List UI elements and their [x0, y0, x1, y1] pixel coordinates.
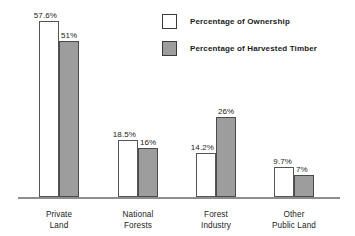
bar-value-timber-private-land: 51% [61, 31, 77, 41]
x-axis-baseline [18, 197, 340, 199]
category-label-forest-industry: Forest Industry [178, 209, 254, 231]
category-label-line2: Industry [178, 220, 254, 231]
category-label-line1: Other [284, 210, 305, 219]
bar-pair: 18.5% 16% [100, 17, 176, 197]
bar-pair: 14.2% 26% [178, 17, 254, 197]
bar-group-national-forests: 18.5% 16% National Forests [100, 7, 176, 197]
bar-timber-national-forests: 16% [138, 148, 158, 197]
bar-ownership-private-land: 57.6% [39, 21, 59, 197]
bar-value-ownership-other-public-land: 9.7% [273, 157, 292, 167]
bar-value-ownership-national-forests: 18.5% [113, 130, 136, 140]
bar-value-timber-other-public-land: 7% [296, 165, 308, 175]
bar-ownership-forest-industry: 14.2% [196, 153, 216, 197]
bar-timber-forest-industry: 26% [216, 117, 236, 197]
bar-timber-private-land: 51% [59, 41, 79, 197]
bar-timber-other-public-land: 7% [294, 175, 314, 197]
bar-group-other-public-land: 9.7% 7% Other Public Land [256, 7, 332, 197]
bar-pair: 57.6% 51% [21, 17, 97, 197]
category-label-line1: National [123, 210, 154, 219]
category-label-line2: Forests [100, 220, 176, 231]
category-label-national-forests: National Forests [100, 209, 176, 231]
category-label-line2: Land [21, 220, 97, 231]
plot-area: 57.6% 51% Private Land 18.5% 16% [0, 0, 355, 236]
bar-value-timber-forest-industry: 26% [218, 107, 234, 117]
bar-value-ownership-forest-industry: 14.2% [191, 143, 214, 153]
category-label-line2: Public Land [256, 220, 332, 231]
category-label-line1: Private [46, 210, 72, 219]
bar-group-private-land: 57.6% 51% Private Land [21, 7, 97, 197]
category-label-other-public-land: Other Public Land [256, 209, 332, 231]
category-label-line1: Forest [204, 210, 228, 219]
bar-ownership-national-forests: 18.5% [118, 140, 138, 197]
bar-ownership-other-public-land: 9.7% [274, 167, 294, 197]
bar-pair: 9.7% 7% [256, 17, 332, 197]
bar-value-timber-national-forests: 16% [140, 138, 156, 148]
bar-group-forest-industry: 14.2% 26% Forest Industry [178, 7, 254, 197]
bar-value-ownership-private-land: 57.6% [34, 11, 57, 21]
category-label-private-land: Private Land [21, 209, 97, 231]
bar-chart: Percentage of Ownership Percentage of Ha… [0, 0, 355, 236]
